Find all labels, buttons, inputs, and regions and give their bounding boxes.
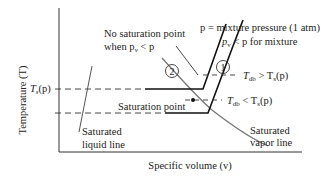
saturated-liquid-label-line1: Saturated — [82, 126, 122, 137]
y-axis-label: Temperature (T) — [17, 65, 29, 134]
state-1-marker: 1 — [217, 61, 230, 74]
saturated-liquid-label-line2: liquid line — [82, 139, 125, 150]
mixture-pressure-label: p = mixture pressure (1 atm) — [200, 22, 320, 34]
ts-tick-label: Ts(p) — [30, 83, 51, 96]
state-2-marker: 2 — [166, 65, 179, 78]
svg-text:1: 1 — [221, 62, 226, 73]
saturated-vapor-label-line1: Saturated — [250, 125, 290, 136]
tdb-greater-label: Tdb > Ts(p) — [243, 70, 289, 83]
no-saturation-leader — [176, 46, 198, 75]
tv-diagram: Temperature (T) Specific volume (v) Ts(p… — [0, 0, 335, 181]
saturated-liquid-line — [79, 66, 92, 132]
no-saturation-label-line1: No saturation point — [104, 28, 185, 39]
no-saturation-label-line2: when pv < p — [104, 41, 154, 54]
saturation-point-label: Saturation point — [118, 101, 185, 112]
x-axis-label: Specific volume (v) — [148, 160, 232, 172]
saturated-vapor-label-line2: vapor line — [250, 137, 293, 148]
tdb-less-label: Tdb < Ts(p) — [227, 95, 273, 108]
saturation-point-dot — [191, 98, 195, 102]
svg-text:2: 2 — [170, 66, 175, 77]
